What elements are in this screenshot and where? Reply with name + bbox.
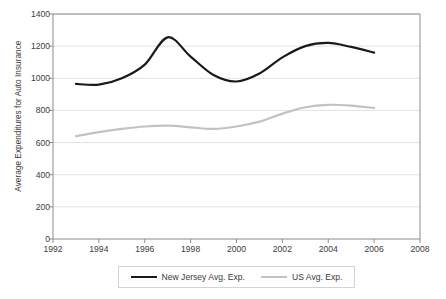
x-tick-label: 2004 bbox=[305, 245, 351, 254]
x-tick-label: 1996 bbox=[122, 245, 168, 254]
y-tick-label: 600 bbox=[10, 138, 50, 147]
y-tick-label: 0 bbox=[10, 235, 50, 244]
x-axis-tick-labels: 199219941996199820002002200420062008 bbox=[0, 245, 446, 259]
legend-line-swatch-us bbox=[261, 276, 287, 278]
legend-label-us: US Avg. Exp. bbox=[292, 273, 342, 282]
chart-legend: New Jersey Avg. Exp. US Avg. Exp. bbox=[118, 266, 355, 288]
x-tick-label: 2002 bbox=[259, 245, 305, 254]
series-line-us bbox=[76, 105, 374, 136]
data-series-lines bbox=[76, 37, 374, 136]
x-tick-label: 2000 bbox=[214, 245, 260, 254]
x-tick-label: 1992 bbox=[30, 245, 76, 254]
x-tick-label: 2006 bbox=[351, 245, 397, 254]
legend-label-new-jersey: New Jersey Avg. Exp. bbox=[162, 273, 245, 282]
x-tick-label: 1994 bbox=[76, 245, 122, 254]
y-tick-label: 1000 bbox=[10, 74, 50, 83]
legend-line-swatch-new-jersey bbox=[131, 276, 157, 278]
gridlines bbox=[53, 14, 420, 207]
y-tick-label: 200 bbox=[10, 203, 50, 212]
y-tick-label: 400 bbox=[10, 170, 50, 179]
x-axis-tick-marks bbox=[49, 14, 420, 243]
x-tick-label: 1998 bbox=[168, 245, 214, 254]
y-tick-label: 800 bbox=[10, 106, 50, 115]
legend-item-new-jersey: New Jersey Avg. Exp. bbox=[131, 273, 245, 282]
y-tick-label: 1400 bbox=[10, 10, 50, 19]
y-tick-label: 1200 bbox=[10, 42, 50, 51]
legend-item-us: US Avg. Exp. bbox=[261, 273, 342, 282]
line-chart: Average Expenditures for Auto Insurance … bbox=[0, 0, 446, 299]
x-tick-label: 2008 bbox=[397, 245, 443, 254]
